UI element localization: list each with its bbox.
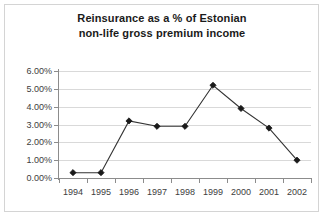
data-point-marker [98,170,104,176]
data-point-marker [154,123,160,129]
data-point-marker [70,170,76,176]
data-series [0,0,324,217]
data-point-marker [182,123,188,129]
data-point-marker [126,118,132,124]
chart-figure: Reinsurance as a % of Estonian non-life … [0,0,324,217]
